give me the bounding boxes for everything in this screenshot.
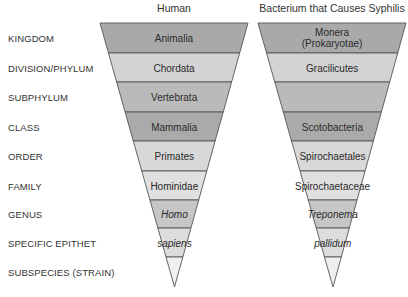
- taxon-label: Monera(Prokaryotae): [302, 27, 363, 49]
- rank-label: KINGDOM: [8, 33, 54, 44]
- band-subphylum: [275, 82, 390, 112]
- taxon-label: pallidum: [314, 237, 351, 248]
- rank-label: SUBSPECIES (STRAIN): [8, 267, 114, 278]
- column-title: Human: [157, 2, 191, 14]
- taxon-label: Spirochaetales: [299, 151, 365, 162]
- taxon-label: Spirochaetaceae: [295, 180, 370, 191]
- taxon-label: Primates: [155, 151, 194, 162]
- taxon-label: sapiens: [157, 237, 191, 248]
- taxon-label: Vertebrata: [151, 92, 197, 103]
- taxon-label: Homo: [161, 209, 188, 220]
- rank-label: FAMILY: [8, 180, 42, 191]
- rank-label: CLASS: [8, 121, 40, 132]
- rank-label: ORDER: [8, 151, 43, 162]
- taxon-label: Chordata: [154, 62, 195, 73]
- column-title: Bacterium that Causes Syphilis: [259, 2, 404, 14]
- taxon-label: Treponema: [308, 209, 358, 220]
- taxon-label: Hominidae: [150, 180, 198, 191]
- rank-label: GENUS: [8, 209, 42, 220]
- rank-label: SPECIFIC EPITHET: [8, 237, 96, 248]
- rank-label: DIVISION/PHYLUM: [8, 62, 93, 73]
- band-subspecies-strain: [324, 257, 341, 287]
- taxon-label: Scotobacteria: [302, 121, 363, 132]
- rank-label: SUBPHYLUM: [8, 92, 68, 103]
- taxon-label: Animalia: [155, 33, 193, 44]
- band-subspecies-strain: [166, 257, 183, 287]
- taxon-label: Gracilicutes: [306, 62, 358, 73]
- taxon-label: Mammalia: [151, 121, 197, 132]
